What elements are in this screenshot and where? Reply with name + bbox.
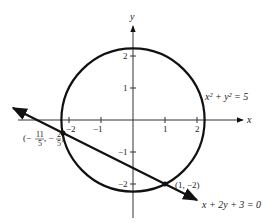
y-tick-label-neg2: −2 (118, 179, 128, 189)
x-tick-label-neg2: −2 (66, 124, 76, 134)
y-tick-label-neg1: −1 (118, 147, 128, 157)
y-axis-label: y (129, 11, 135, 22)
svg-text:11: 11 (36, 130, 44, 139)
intersection-label-2: (− 11 5 , − 2 5 ) (23, 130, 64, 148)
y-tick-label-2: 2 (123, 51, 128, 61)
circle-line-intersection-diagram: x y −2 −1 1 2 2 1 −1 −2 x² + y² = 5 x + … (0, 0, 263, 223)
x-tick-label-2: 2 (195, 124, 200, 134)
x-axis-label: x (246, 114, 252, 125)
intersection-label-1: (1, −2) (175, 180, 200, 190)
y-tick-label-1: 1 (123, 83, 128, 93)
svg-text:): ) (61, 133, 64, 143)
intersection-point-1 (163, 182, 168, 187)
svg-text:(−: (− (23, 133, 31, 143)
x-tick-label-neg1: −1 (93, 124, 103, 134)
svg-text:, −: , − (44, 133, 54, 143)
svg-text:5: 5 (38, 139, 42, 148)
line-equation-label: x + 2y + 3 = 0 (201, 199, 261, 210)
circle-equation-label: x² + y² = 5 (204, 91, 248, 102)
x-tick-label-1: 1 (163, 124, 168, 134)
